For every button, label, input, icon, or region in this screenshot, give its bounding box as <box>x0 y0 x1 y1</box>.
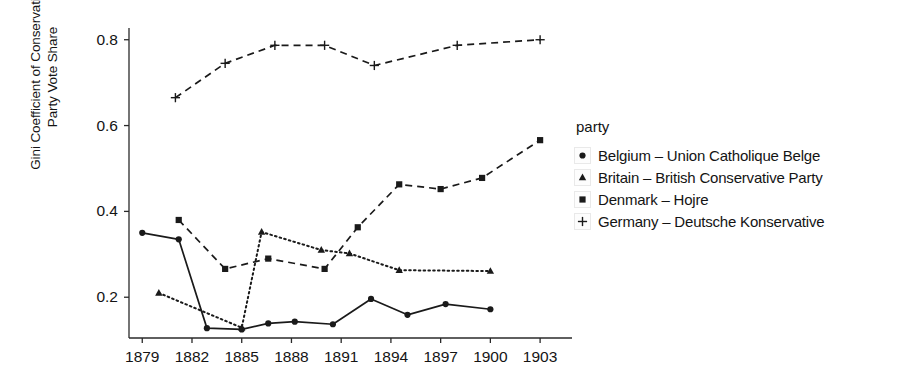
square-marker-icon <box>479 175 485 181</box>
series-1 <box>155 228 494 330</box>
square-marker-icon <box>396 181 402 187</box>
x-tick-label: 1903 <box>523 348 557 366</box>
square-marker-icon <box>222 266 228 272</box>
legend-item-label: Denmark – Hojre <box>598 191 708 208</box>
circle-marker-icon <box>487 306 493 312</box>
triangle-marker-icon <box>155 289 162 296</box>
legend-entries: Belgium – Union Catholique BelgeBritain … <box>574 144 904 232</box>
plus-marker-icon <box>578 216 587 225</box>
plus-marker-icon <box>453 41 462 50</box>
square-marker-icon <box>537 137 543 143</box>
x-tick-label: 1894 <box>374 348 408 366</box>
triangle-marker-icon <box>579 173 586 180</box>
legend-title: party <box>574 118 904 135</box>
square-marker-icon <box>574 191 591 208</box>
legend-item-3[interactable]: Germany – Deutsche Konservative <box>574 210 904 232</box>
triangle-marker-icon <box>258 228 265 235</box>
circle-marker-icon <box>404 312 410 318</box>
legend-item-label: Germany – Deutsche Konservative <box>598 213 824 230</box>
plus-marker-icon <box>370 61 379 70</box>
y-tick-label: 0.8 <box>62 31 118 49</box>
legend-item-label: Belgium – Union Catholique Belge <box>598 147 820 164</box>
circle-marker-icon <box>330 321 336 327</box>
x-tick-label: 1900 <box>473 348 507 366</box>
series-2 <box>176 137 544 272</box>
x-tick-label: 1885 <box>224 348 258 366</box>
circle-marker-icon <box>204 325 210 331</box>
y-tick-label: 0.4 <box>62 202 118 220</box>
series-line <box>142 233 490 330</box>
series-0 <box>139 230 493 333</box>
plus-marker-icon <box>574 213 591 230</box>
x-tick-label: 1888 <box>274 348 308 366</box>
chart-legend: party Belgium – Union Catholique BelgeBr… <box>574 118 904 232</box>
circle-marker-icon <box>176 236 182 242</box>
square-marker-icon <box>265 256 271 262</box>
x-tick-label: 1891 <box>324 348 358 366</box>
square-marker-icon <box>355 224 361 230</box>
y-tick-label: 0.6 <box>62 117 118 135</box>
plus-marker-icon <box>536 35 545 44</box>
x-tick-label: 1897 <box>423 348 457 366</box>
x-tick-label: 1882 <box>175 348 209 366</box>
circle-marker-icon <box>443 301 449 307</box>
chart-figure: Gini Coefficient of Conservative Party V… <box>0 0 908 378</box>
square-marker-icon <box>438 186 444 192</box>
square-marker-icon <box>579 196 585 202</box>
circle-marker-icon <box>265 320 271 326</box>
legend-item-0[interactable]: Belgium – Union Catholique Belge <box>574 144 904 166</box>
circle-marker-icon <box>139 230 145 236</box>
circle-marker-icon <box>368 296 374 302</box>
circle-marker-icon <box>574 147 591 164</box>
series-3 <box>171 35 545 102</box>
legend-item-1[interactable]: Britain – British Conservative Party <box>574 166 904 188</box>
plus-marker-icon <box>270 41 279 50</box>
series-line <box>175 40 540 98</box>
series-line <box>159 232 491 328</box>
square-marker-icon <box>322 266 328 272</box>
series-line <box>179 140 540 269</box>
plus-marker-icon <box>221 59 230 68</box>
y-tick-label: 0.2 <box>62 288 118 306</box>
circle-marker-icon <box>579 152 585 158</box>
square-marker-icon <box>176 217 182 223</box>
legend-item-label: Britain – British Conservative Party <box>598 169 823 186</box>
triangle-marker-icon <box>574 169 591 186</box>
circle-marker-icon <box>292 319 298 325</box>
x-tick-label: 1879 <box>125 348 159 366</box>
legend-item-2[interactable]: Denmark – Hojre <box>574 188 904 210</box>
plus-marker-icon <box>320 41 329 50</box>
